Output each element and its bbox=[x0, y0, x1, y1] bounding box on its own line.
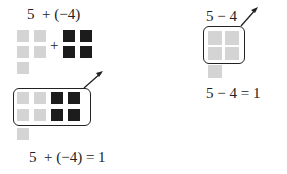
tile bbox=[225, 31, 239, 45]
tile bbox=[225, 47, 239, 60]
remaining-tile bbox=[208, 65, 222, 78]
tile bbox=[208, 31, 222, 45]
tile bbox=[208, 47, 222, 60]
right-result-equation: 5 − 4 = 1 bbox=[206, 85, 260, 101]
